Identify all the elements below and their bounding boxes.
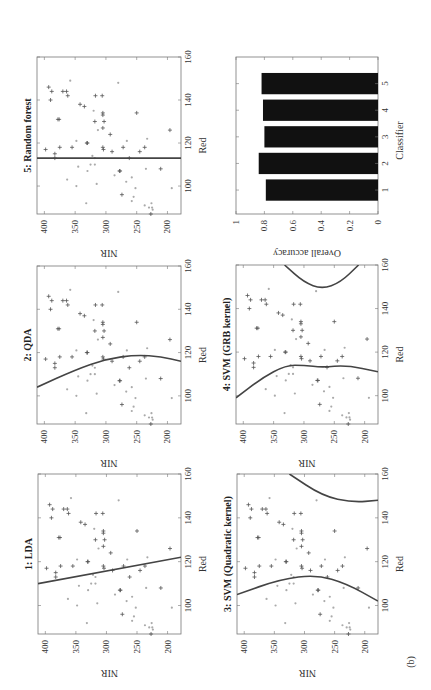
figure-canvas: 100120140160400350300250200RedNIR1: LDA1… — [0, 0, 431, 690]
data-point — [311, 384, 313, 386]
data-point — [151, 206, 153, 208]
data-point — [93, 319, 95, 321]
data-point — [113, 384, 115, 386]
nir-tick-label: 400 — [239, 640, 249, 654]
data-point — [77, 166, 79, 168]
nir-tick-label: 200 — [162, 220, 172, 234]
data-point — [76, 604, 78, 606]
data-point — [126, 600, 128, 602]
red-axis-label: Red — [197, 556, 208, 572]
data-point — [152, 209, 154, 211]
red-tick-label: 160 — [183, 50, 193, 64]
scatter-panel: 100120140160400350300250200RedNIR3: SVM … — [222, 467, 405, 679]
data-point — [75, 185, 77, 187]
nir-tick-label: 350 — [269, 430, 279, 444]
red-tick-label: 100 — [183, 179, 193, 193]
nir-tick-label: 200 — [360, 430, 370, 444]
plot-frame — [237, 474, 378, 634]
data-point — [328, 386, 330, 388]
data-point — [346, 626, 348, 628]
data-point — [126, 140, 128, 142]
red-tick-label: 100 — [380, 388, 390, 402]
data-point — [114, 593, 116, 595]
data-point — [348, 412, 350, 414]
nir-tick-label: 300 — [299, 640, 309, 654]
figure-label: (b) — [405, 656, 417, 668]
nir-axis-label: NIR — [100, 248, 118, 259]
data-point — [324, 558, 326, 560]
data-point — [293, 582, 295, 584]
data-point — [75, 140, 77, 142]
data-point — [343, 587, 345, 589]
data-point — [171, 397, 173, 399]
data-point — [133, 615, 135, 617]
data-point — [144, 624, 146, 626]
data-point — [134, 187, 136, 189]
data-point — [131, 596, 133, 598]
red-axis-label: Red — [394, 346, 405, 362]
data-point — [134, 397, 136, 399]
nir-tick-label: 250 — [132, 430, 142, 444]
data-point — [151, 626, 153, 628]
data-point — [344, 556, 346, 558]
accuracy-bar — [263, 100, 378, 121]
nir-tick-label: 300 — [299, 430, 309, 444]
data-point — [91, 155, 93, 157]
data-point — [144, 414, 146, 416]
data-point — [67, 598, 69, 600]
nir-tick-label: 400 — [39, 430, 49, 444]
red-tick-label: 160 — [183, 467, 193, 481]
data-point — [133, 406, 135, 408]
data-point — [150, 412, 152, 414]
classifier-axis-label: Classifier — [394, 121, 405, 160]
data-point — [117, 82, 119, 84]
data-point — [292, 373, 294, 375]
data-point — [368, 397, 370, 399]
red-tick-label: 120 — [183, 345, 193, 359]
data-point — [86, 170, 88, 172]
data-point — [151, 416, 153, 418]
red-tick-label: 100 — [183, 389, 193, 403]
accuracy-bar — [266, 179, 378, 200]
nir-tick-label: 250 — [132, 640, 142, 654]
data-point — [296, 547, 298, 549]
data-point — [96, 183, 98, 185]
data-point — [97, 338, 99, 340]
data-point — [341, 414, 343, 416]
data-point — [76, 558, 78, 560]
data-point — [66, 388, 68, 390]
data-point — [323, 390, 325, 392]
data-point — [150, 202, 152, 204]
data-point — [349, 419, 351, 421]
nir-tick-label: 200 — [360, 640, 370, 654]
data-point — [341, 624, 343, 626]
data-point — [323, 349, 325, 351]
data-point — [283, 412, 285, 414]
red-tick-label: 100 — [380, 598, 390, 612]
nir-tick-label: 250 — [330, 640, 340, 654]
plot-frame — [37, 57, 181, 214]
accuracy-tick-label: 0 — [373, 220, 383, 225]
data-point — [144, 204, 146, 206]
data-point — [285, 589, 287, 591]
nir-axis-label: NIR — [101, 668, 119, 679]
data-point — [86, 622, 88, 624]
data-point — [265, 388, 267, 390]
data-point — [94, 367, 96, 369]
data-point — [276, 585, 278, 587]
scatter-panel: 100120140160400350300250200RedNIR4: SVM … — [221, 258, 405, 469]
red-axis-label: Red — [197, 347, 208, 363]
data-point — [131, 386, 133, 388]
data-point — [274, 558, 276, 560]
data-point — [133, 196, 135, 198]
accuracy-bar — [264, 126, 378, 147]
data-point — [268, 497, 270, 499]
data-point — [349, 626, 351, 628]
data-point — [312, 593, 314, 595]
red-tick-label: 160 — [380, 467, 390, 481]
data-point — [126, 558, 128, 560]
accuracy-tick-label: 0.6 — [288, 220, 298, 232]
data-point — [113, 174, 115, 176]
data-point — [148, 206, 150, 208]
panel-title: 1: LDA — [23, 537, 34, 570]
